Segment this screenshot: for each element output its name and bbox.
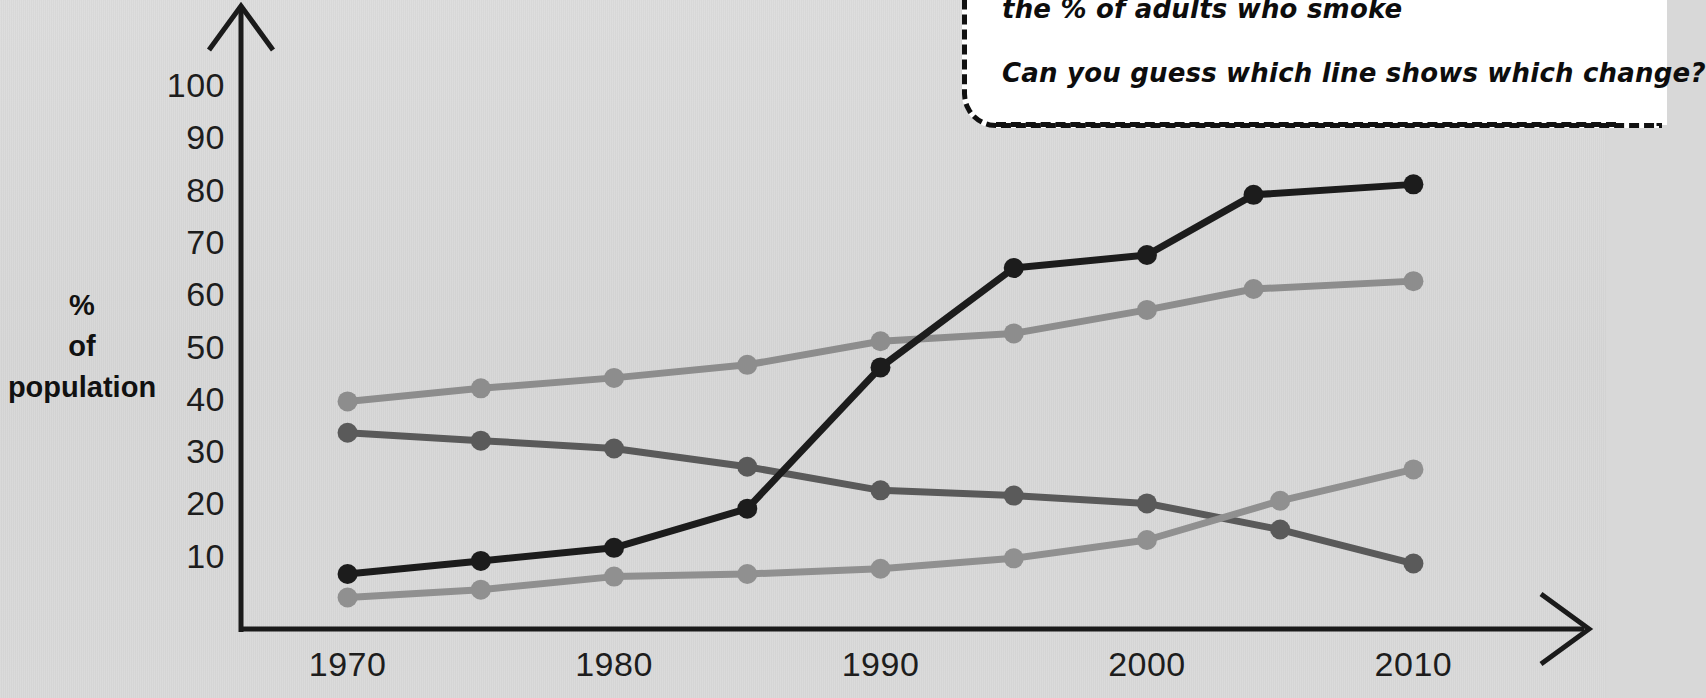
- data-point: [1244, 185, 1264, 205]
- data-point: [871, 331, 891, 351]
- y-tick-label-90: 90: [40, 118, 225, 157]
- data-point: [604, 368, 624, 388]
- data-point: [1403, 271, 1423, 291]
- x-tick-label-1970: 1970: [309, 645, 387, 684]
- x-tick-label-2000: 2000: [1108, 645, 1186, 684]
- data-point: [1137, 493, 1157, 513]
- data-point: [1137, 245, 1157, 265]
- callout-bottom-border: [996, 122, 1616, 127]
- data-point: [1270, 520, 1290, 540]
- y-axis-title-line: population: [8, 367, 156, 408]
- data-point: [737, 355, 757, 375]
- y-tick-label-30: 30: [40, 432, 225, 471]
- data-point: [338, 564, 358, 584]
- data-point: [338, 588, 358, 608]
- data-point: [338, 391, 358, 411]
- y-axis-title: %ofpopulation: [8, 285, 156, 409]
- data-point: [1004, 548, 1024, 568]
- data-point: [471, 378, 491, 398]
- y-axis-title-line: %: [8, 285, 156, 326]
- data-point: [338, 423, 358, 443]
- x-tick-label-2010: 2010: [1375, 645, 1453, 684]
- data-point: [471, 431, 491, 451]
- data-point: [1004, 323, 1024, 343]
- data-point: [737, 499, 757, 519]
- data-point: [1270, 491, 1290, 511]
- y-tick-label-20: 20: [40, 484, 225, 523]
- y-tick-label-70: 70: [40, 222, 225, 261]
- data-point: [737, 564, 757, 584]
- data-point: [737, 457, 757, 477]
- data-point: [471, 551, 491, 571]
- y-tick-label-100: 100: [40, 66, 225, 105]
- data-point: [871, 357, 891, 377]
- series-light-gray-rising-line: [338, 271, 1424, 411]
- data-point: [471, 580, 491, 600]
- y-tick-label-80: 80: [40, 170, 225, 209]
- series-line: [348, 184, 1414, 574]
- series-dark-gray-falling-line: [338, 423, 1424, 574]
- callout-line-1: the % of adults who smoke: [1002, 0, 1402, 24]
- x-tick-label-1980: 1980: [575, 645, 653, 684]
- data-point: [604, 567, 624, 587]
- data-point: [1403, 174, 1423, 194]
- data-point: [1137, 300, 1157, 320]
- x-tick-label-1990: 1990: [842, 645, 920, 684]
- chart-series-group: [338, 174, 1424, 607]
- data-point: [1403, 459, 1423, 479]
- data-point: [1137, 530, 1157, 550]
- data-point: [871, 480, 891, 500]
- data-point: [1004, 486, 1024, 506]
- y-tick-label-10: 10: [40, 536, 225, 575]
- data-point: [1403, 554, 1423, 574]
- callout-line-2: Can you guess which line shows which cha…: [1002, 58, 1706, 88]
- y-axis-title-line: of: [8, 326, 156, 367]
- data-point: [871, 559, 891, 579]
- data-point: [1004, 258, 1024, 278]
- data-point: [1244, 279, 1264, 299]
- data-point: [604, 538, 624, 558]
- data-point: [604, 438, 624, 458]
